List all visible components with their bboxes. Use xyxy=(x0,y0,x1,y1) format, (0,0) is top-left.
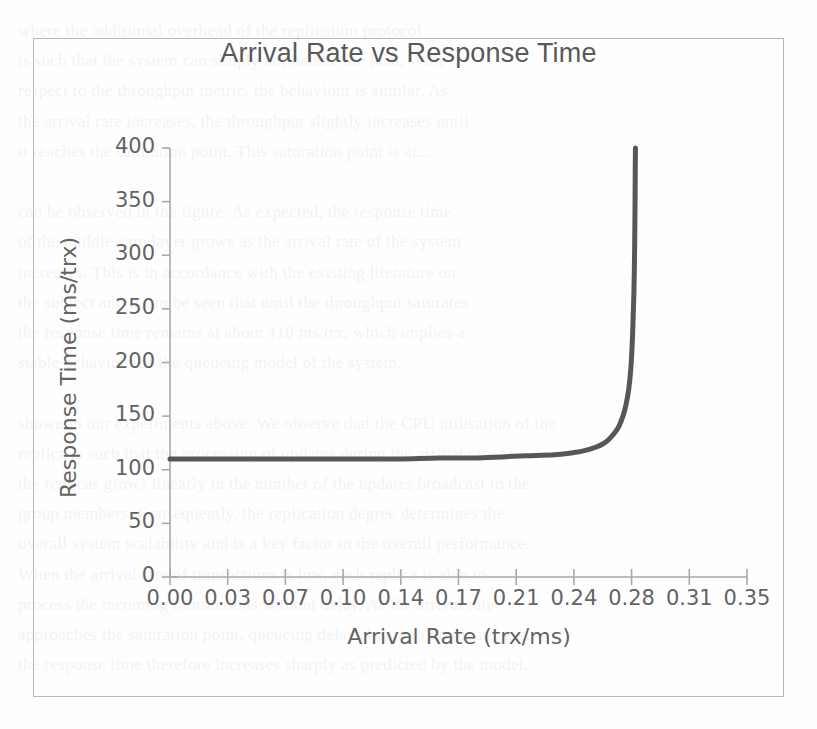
y-tick-label: 50 xyxy=(95,509,155,533)
y-tick-label: 300 xyxy=(95,241,155,265)
x-tick-label: 0.35 xyxy=(711,586,783,610)
response-time-curve xyxy=(170,148,635,459)
y-axis-title: Response Time (ms/trx) xyxy=(56,153,81,583)
y-tick-label: 400 xyxy=(95,134,155,158)
y-tick-label: 150 xyxy=(95,402,155,426)
y-tick-label: 350 xyxy=(95,188,155,212)
y-tick-label: 100 xyxy=(95,456,155,480)
y-tick-label: 250 xyxy=(95,295,155,319)
x-axis-title: Arrival Rate (trx/ms) xyxy=(170,624,748,649)
y-tick-label: 0 xyxy=(95,563,155,587)
y-tick-label: 200 xyxy=(95,349,155,373)
axes xyxy=(170,148,747,577)
y-axis-tick-labels: 050100150200250300350400 xyxy=(95,0,155,729)
x-axis-tick-labels: 0.000.030.070.100.140.170.210.240.280.31… xyxy=(0,586,817,618)
